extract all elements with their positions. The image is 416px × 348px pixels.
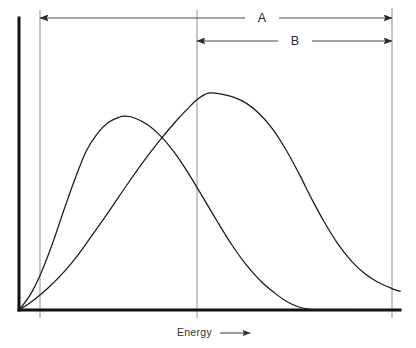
- chart-axes: [19, 18, 400, 310]
- curve-curve-2: [19, 93, 400, 310]
- curve-curve-1: [19, 116, 392, 310]
- energy-distribution-chart: AB Energy: [0, 0, 416, 348]
- dimension-label-b: B: [291, 34, 299, 48]
- x-axis-caption-group: Energy: [177, 326, 250, 338]
- threshold-guide-lines: [40, 8, 392, 318]
- figure-container: AB Energy: [0, 0, 416, 348]
- x-axis-caption-label: Energy: [177, 326, 213, 338]
- dimension-label-a: A: [258, 11, 267, 25]
- dimension-brackets: AB: [40, 11, 392, 48]
- distribution-curves: [19, 93, 400, 310]
